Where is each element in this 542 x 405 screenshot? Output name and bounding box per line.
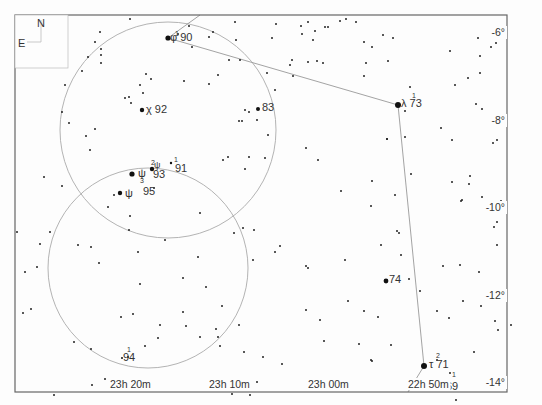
star (85, 135, 87, 137)
star (185, 325, 187, 327)
star (43, 176, 45, 178)
star (340, 190, 342, 192)
star (305, 265, 307, 267)
star (81, 70, 83, 72)
star (448, 317, 450, 319)
star (244, 168, 246, 170)
named-star (384, 279, 389, 284)
ra-label: 22h 50m (408, 378, 449, 390)
star (98, 262, 100, 264)
star (478, 271, 480, 273)
star (128, 96, 130, 98)
star (249, 394, 251, 396)
star (481, 196, 483, 198)
star (238, 324, 240, 326)
star-label: 91 (175, 162, 187, 174)
star (462, 300, 464, 302)
star (496, 221, 498, 223)
star (419, 290, 421, 292)
star (398, 232, 400, 234)
star (382, 34, 384, 36)
star (300, 25, 302, 27)
star (479, 72, 481, 74)
star (371, 180, 373, 182)
star (400, 254, 402, 256)
star (404, 110, 406, 112)
star (451, 181, 453, 183)
star (252, 259, 254, 261)
star (377, 316, 379, 318)
star (266, 72, 268, 74)
star-label: φ 90 (170, 31, 192, 43)
star (157, 337, 159, 339)
star (279, 245, 281, 247)
star (449, 50, 451, 52)
star (228, 59, 230, 61)
star (137, 251, 139, 253)
star (159, 324, 161, 326)
star (496, 244, 498, 246)
star (387, 60, 389, 62)
star (469, 175, 471, 177)
star-superscript: 1 (174, 156, 178, 163)
star (197, 256, 199, 258)
star-superscript: 1 (452, 371, 456, 378)
star (124, 97, 126, 99)
star (238, 120, 240, 122)
star (345, 18, 347, 20)
star (371, 46, 373, 48)
star (104, 378, 106, 380)
star (233, 232, 235, 234)
star (358, 343, 360, 345)
star (139, 283, 141, 285)
star (305, 147, 307, 149)
named-star (118, 191, 122, 195)
star (479, 55, 481, 57)
star (129, 215, 131, 217)
dec-label: -8° (491, 114, 505, 126)
star (467, 77, 469, 79)
star (386, 138, 388, 140)
star (36, 266, 38, 268)
star (396, 230, 398, 232)
named-star (129, 171, 134, 176)
star (61, 111, 63, 113)
star (227, 156, 229, 158)
star (319, 319, 321, 321)
star (314, 30, 316, 32)
star (493, 226, 495, 228)
compass-east-label: E (18, 37, 25, 49)
star (455, 399, 457, 401)
star (305, 309, 307, 311)
star (363, 41, 365, 43)
star (392, 37, 394, 39)
star-superscript: 2 (436, 352, 440, 359)
star (409, 86, 411, 88)
star (248, 111, 250, 113)
star (142, 92, 144, 94)
named-star (421, 363, 427, 369)
star-superscript: 1 (175, 30, 179, 37)
star (130, 102, 132, 104)
star (100, 54, 102, 56)
star (312, 39, 314, 41)
star (191, 46, 193, 48)
star (408, 278, 410, 280)
compass-box: N E (15, 15, 68, 68)
star (30, 308, 32, 310)
star (241, 120, 243, 122)
background (0, 0, 542, 405)
star (199, 336, 201, 338)
star (242, 227, 244, 229)
star (473, 351, 475, 353)
star (91, 384, 93, 386)
star (90, 246, 92, 248)
star (208, 36, 210, 38)
star-label: χ 92 (146, 103, 167, 115)
star (481, 108, 483, 110)
star (436, 310, 438, 312)
star (390, 344, 392, 346)
star (291, 59, 293, 61)
star (317, 159, 319, 161)
star-label: ψ (125, 187, 133, 199)
